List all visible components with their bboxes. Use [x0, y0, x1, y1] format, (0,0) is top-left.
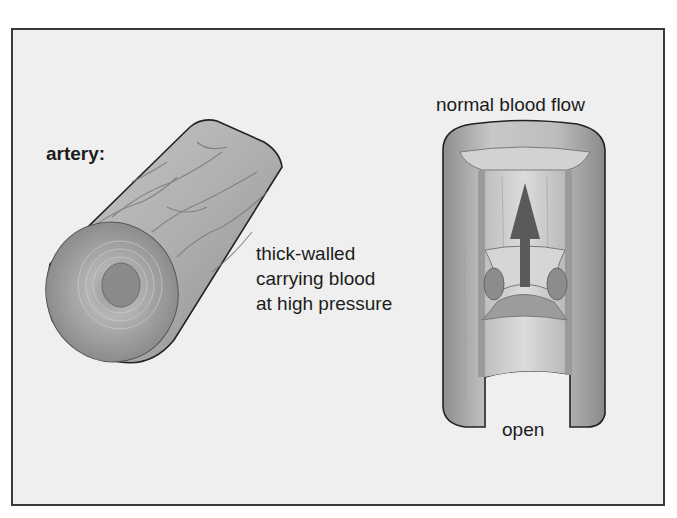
- artery-description-line: carrying blood: [256, 266, 392, 291]
- artery-description: thick-walled carrying blood at high pres…: [256, 241, 392, 316]
- cropped-caption-fragment: [0, 0, 677, 6]
- figure-frame: artery: thick-walled carrying blood at h…: [11, 28, 665, 506]
- vein-open-label: open: [502, 419, 544, 441]
- artery-description-line: at high pressure: [256, 291, 392, 316]
- vein-flow-label: normal blood flow: [436, 94, 585, 116]
- artery-description-line: thick-walled: [256, 241, 392, 266]
- artery-title: artery:: [46, 143, 105, 165]
- vein-cutaway-illustration: [443, 121, 605, 428]
